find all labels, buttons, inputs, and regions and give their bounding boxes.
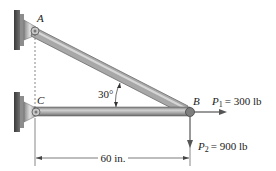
angle-label: 30° (98, 88, 113, 100)
label-b: B (193, 95, 200, 107)
label-c: C (37, 94, 45, 106)
load-arrow-p1 (194, 109, 227, 115)
load-label-p2: P2= 900 lb (197, 140, 248, 154)
load-arrow-p2 (187, 117, 193, 148)
label-a: A (36, 12, 44, 24)
angle-arc (114, 83, 121, 107)
member-cb (34, 107, 190, 116)
truss-diagram: 60 in. 30° A C B P1= 300 lb P2= 900 lb (0, 0, 276, 171)
pin-b (186, 108, 195, 117)
dimension-label: 60 in. (100, 152, 125, 164)
member-ab (31, 27, 188, 115)
load-label-p1: P1= 300 lb (211, 95, 262, 109)
